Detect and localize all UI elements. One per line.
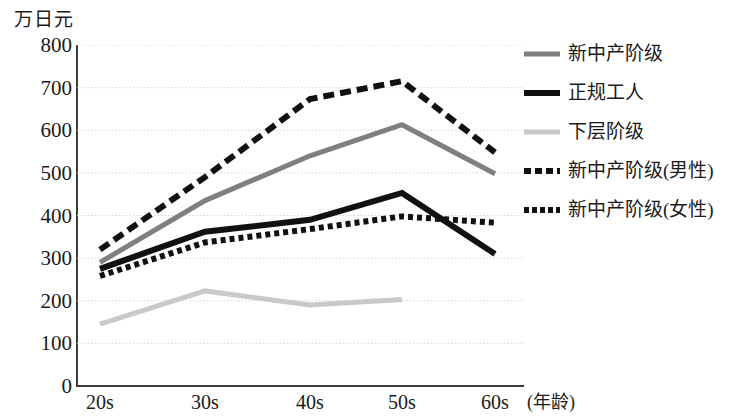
legend-swatch-icon [524, 45, 560, 63]
series-line [100, 291, 402, 324]
y-tick-label: 200 [4, 290, 72, 311]
legend-swatch-icon [524, 123, 560, 141]
y-tick-label: 0 [4, 376, 72, 397]
x-tick-label: 30s [191, 392, 219, 412]
series-line [100, 193, 495, 269]
legend-swatch-icon [524, 201, 560, 219]
x-tick-label: 60s [481, 392, 509, 412]
plot-area [77, 45, 523, 386]
x-tick-label: 40s [296, 392, 324, 412]
series-line [100, 125, 495, 263]
x-tick-label: 20s [86, 392, 114, 412]
legend-item-label: 正规工人 [568, 83, 644, 102]
y-tick-label: 500 [4, 162, 72, 183]
legend-swatch-icon [524, 84, 560, 102]
y-tick-label: 400 [4, 205, 72, 226]
legend-item-label: 新中产阶级(男性) [568, 161, 714, 180]
legend-item-label: 新中产阶级(女性) [568, 200, 714, 219]
legend-item[interactable]: 新中产阶级(女性) [524, 190, 739, 229]
x-axis-caption: (年龄) [527, 393, 575, 411]
legend-item[interactable]: 下层阶级 [524, 112, 739, 151]
y-tick-label: 600 [4, 120, 72, 141]
y-tick-label: 700 [4, 77, 72, 98]
series-line [100, 81, 495, 249]
x-tick-label: 50s [388, 392, 416, 412]
legend-item[interactable]: 正规工人 [524, 73, 739, 112]
y-tick-label: 800 [4, 35, 72, 56]
legend-item-label: 下层阶级 [568, 122, 644, 141]
legend-item[interactable]: 新中产阶级(男性) [524, 151, 739, 190]
legend-item[interactable]: 新中产阶级 [524, 34, 739, 73]
legend-item-label: 新中产阶级 [568, 44, 663, 63]
line-chart: 万日元 0100200300400500600700800 20s30s40s5… [0, 0, 739, 417]
legend-swatch-icon [524, 162, 560, 180]
y-tick-label: 300 [4, 248, 72, 269]
y-axis-tick-labels: 0100200300400500600700800 [0, 0, 72, 417]
chart-legend: 新中产阶级正规工人下层阶级新中产阶级(男性)新中产阶级(女性) [524, 34, 739, 229]
y-tick-label: 100 [4, 333, 72, 354]
